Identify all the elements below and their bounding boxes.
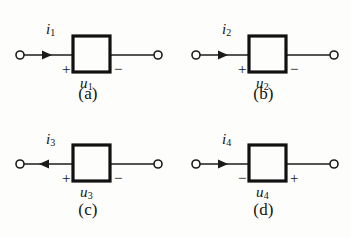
- element-box: [73, 145, 110, 181]
- left-polarity-sign-a: +: [62, 62, 70, 77]
- current-label-c: i3: [46, 132, 55, 148]
- left-polarity-sign-b: +: [238, 62, 246, 77]
- circuit-panel-a: i1 + − u1 (a): [0, 0, 176, 118]
- right-polarity-sign-c: −: [114, 171, 122, 186]
- right-terminal-node: [154, 51, 162, 59]
- current-arrowhead: [42, 51, 52, 60]
- circuit-panel-b: i2 + − u2 (b): [176, 0, 351, 118]
- panel-caption-a: (a): [0, 84, 176, 104]
- voltage-label-c: u3: [80, 185, 93, 201]
- current-arrowhead: [218, 160, 228, 169]
- voltage-label-d: u4: [256, 185, 269, 201]
- circuit-panel-d: i4 − + u4 (d): [176, 118, 351, 237]
- right-terminal-node: [154, 160, 162, 168]
- panel-caption-b: (b): [176, 84, 351, 104]
- left-polarity-sign-c: +: [62, 171, 70, 186]
- current-label-b: i2: [222, 22, 231, 38]
- current-arrowhead: [218, 51, 228, 60]
- right-polarity-sign-b: −: [290, 62, 298, 77]
- figure-root: i1 + − u1 (a) i2 + − u2 (b) i3 +: [0, 0, 351, 237]
- circuit-panel-c: i3 + − u3 (c): [0, 118, 176, 237]
- element-box: [249, 36, 286, 72]
- element-box: [73, 36, 110, 72]
- current-arrowhead: [39, 160, 49, 169]
- left-terminal-node: [192, 51, 200, 59]
- panel-caption-d: (d): [176, 200, 351, 220]
- right-polarity-sign-d: +: [290, 171, 298, 186]
- current-label-d: i4: [222, 132, 231, 148]
- left-terminal-node: [16, 160, 24, 168]
- left-polarity-sign-d: −: [238, 171, 246, 186]
- right-terminal-node: [330, 51, 338, 59]
- current-label-a: i1: [46, 22, 55, 38]
- element-box: [249, 145, 286, 181]
- left-terminal-node: [192, 160, 200, 168]
- right-polarity-sign-a: −: [114, 62, 122, 77]
- right-terminal-node: [330, 160, 338, 168]
- panel-caption-c: (c): [0, 200, 176, 220]
- left-terminal-node: [16, 51, 24, 59]
